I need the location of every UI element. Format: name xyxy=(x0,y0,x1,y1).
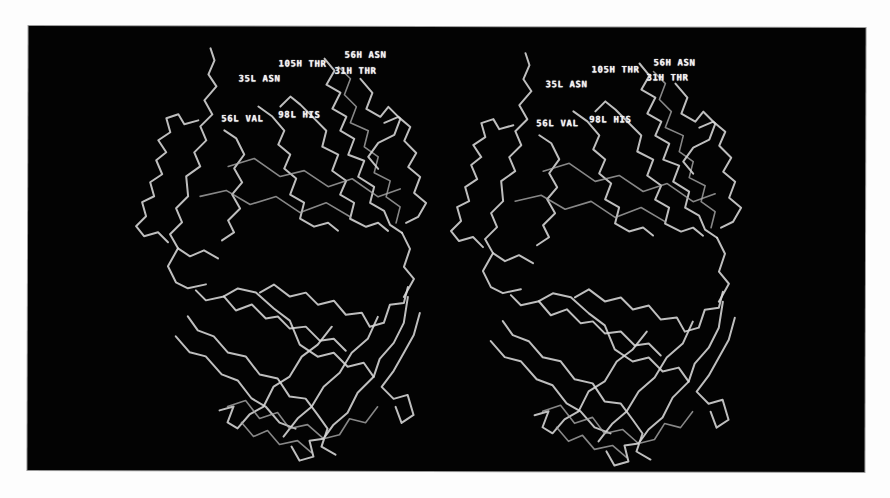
residue-label-105h-thr-right: 105H THR xyxy=(591,65,639,74)
residue-label-31h-thr-left: 31H THR xyxy=(334,67,376,76)
residue-label-98l-his-left: 98L HIS xyxy=(278,111,320,120)
protein-backbone-traces xyxy=(27,26,865,472)
residue-label-56l-val-right: 56L VAL xyxy=(536,119,578,128)
residue-label-105h-thr-left: 105H THR xyxy=(278,60,326,69)
residue-label-56h-asn-left: 56H ASN xyxy=(344,51,386,60)
residue-label-31h-thr-right: 31H THR xyxy=(646,74,688,83)
residue-label-56l-val-left: 56L VAL xyxy=(221,114,263,123)
residue-label-56h-asn-right: 56H ASN xyxy=(653,59,695,68)
residue-label-35l-asn-right: 35L ASN xyxy=(545,80,587,89)
residue-label-98l-his-right: 98L HIS xyxy=(589,115,631,124)
stereo-image-panel: 105H THR 56H ASN 31H THR 35L ASN 56L VAL… xyxy=(27,26,865,472)
residue-label-35l-asn-left: 35L ASN xyxy=(238,74,280,83)
